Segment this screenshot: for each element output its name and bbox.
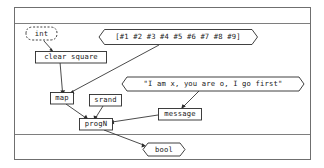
edge-map-to-progn [66,104,86,118]
node-layer: int [#1 #2 #3 #4 #5 #6 #7 #8 #9] clear s… [26,27,304,156]
node-bool[interactable]: bool [143,143,185,156]
node-array-label: [#1 #2 #3 #4 #5 #6 #7 #8 #9] [115,32,240,41]
edge-string-to-message [183,91,199,107]
node-clear-square[interactable]: clear square [36,52,107,64]
diagram-canvas: int [#1 #2 #3 #4 #5 #6 #7 #8 #9] clear s… [0,0,324,168]
node-message[interactable]: message [159,109,202,121]
edge-progn-to-bool [104,130,144,145]
node-clear-square-label: clear square [44,52,98,61]
node-progn-label: progN [85,119,107,128]
diagram-figure: int [#1 #2 #3 #4 #5 #6 #7 #8 #9] clear s… [0,0,324,168]
node-map-label: map [55,93,68,102]
edge-message-to-progn [112,115,158,122]
node-int[interactable]: int [26,27,57,40]
node-map[interactable]: map [51,93,74,105]
node-int-label: int [35,29,48,38]
node-message-label: message [164,109,195,118]
node-srand-label: srand [94,95,116,104]
node-srand[interactable]: srand [90,95,122,107]
edge-srand-to-progn [96,106,104,118]
node-progn[interactable]: progN [80,119,113,131]
node-message-string[interactable]: "I am x, you are o, I go first" [122,77,304,91]
node-bool-label: bool [155,145,173,154]
edge-clear-square-to-map [60,62,63,92]
node-message-string-label: "I am x, you are o, I go first" [144,79,283,88]
node-array[interactable]: [#1 #2 #3 #4 #5 #6 #7 #8 #9] [99,30,258,45]
